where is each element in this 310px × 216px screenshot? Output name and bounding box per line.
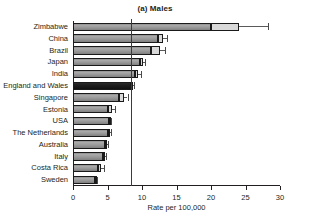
category-label-brazil: Brazil <box>49 45 68 57</box>
category-label-singapore: Singapore <box>34 92 68 104</box>
bar-row: Italy <box>73 151 280 163</box>
category-label-australia: Australia <box>39 139 68 151</box>
bar-row: England and Wales <box>73 80 280 92</box>
x-tick-25 <box>246 186 247 190</box>
x-tick-label-25: 25 <box>241 193 249 202</box>
bar-row: Estonia <box>73 104 280 116</box>
x-tick-30 <box>280 186 281 190</box>
bar-usa <box>73 117 109 125</box>
bar-row: Zimbabwe <box>73 21 280 33</box>
error-whisker-cap <box>145 59 146 66</box>
confidence-interval-box <box>103 152 105 160</box>
bar-england-and-wales <box>73 82 131 90</box>
confidence-interval-box <box>95 176 97 184</box>
bar-row: Singapore <box>73 92 280 104</box>
confidence-interval-box <box>158 34 163 42</box>
top-cropped-artifact <box>10 0 130 3</box>
bar-row: USA <box>73 115 280 127</box>
confidence-interval-box <box>135 70 138 78</box>
confidence-interval-box <box>108 105 112 113</box>
reference-line <box>131 19 132 186</box>
x-tick-0 <box>73 186 74 190</box>
chart-figure: (a) Males 051015202530ZimbabweChinaBrazi… <box>0 0 310 216</box>
category-label-sweden: Sweden <box>41 174 68 186</box>
error-whisker-cap <box>268 23 269 30</box>
x-tick-label-15: 15 <box>172 193 180 202</box>
bar-singapore <box>73 93 119 101</box>
bar-the-netherlands <box>73 129 108 137</box>
error-whisker-cap <box>104 165 105 172</box>
error-whisker-cap <box>106 153 107 160</box>
error-whisker-cap <box>115 106 116 113</box>
bar-japan <box>73 58 140 66</box>
x-tick-20 <box>211 186 212 190</box>
x-tick-5 <box>108 186 109 190</box>
bar-estonia <box>73 105 108 113</box>
category-label-usa: USA <box>53 115 68 127</box>
category-label-england-and-wales: England and Wales <box>3 80 68 92</box>
confidence-interval-box <box>140 58 143 66</box>
error-whisker-cap <box>167 35 168 42</box>
error-whisker-cap <box>134 82 135 89</box>
panel-title: (a) Males <box>0 4 310 13</box>
error-whisker-cap <box>165 47 166 54</box>
category-label-costa-rica: Costa Rica <box>31 162 68 174</box>
bar-row: The Netherlands <box>73 127 280 139</box>
category-label-japan: Japan <box>48 56 68 68</box>
bar-row: China <box>73 33 280 45</box>
category-label-estonia: Estonia <box>43 104 68 116</box>
x-axis-label: Rate per 100,000 <box>73 203 280 212</box>
confidence-interval-box <box>211 23 239 31</box>
bar-india <box>73 70 135 78</box>
category-label-india: India <box>52 68 68 80</box>
confidence-interval-box <box>109 117 111 125</box>
bar-row: Sweden <box>73 174 280 186</box>
category-label-china: China <box>48 33 68 45</box>
x-tick-label-10: 10 <box>138 193 146 202</box>
confidence-interval-box <box>108 129 110 137</box>
x-tick-label-30: 30 <box>276 193 284 202</box>
error-whisker-cap <box>97 177 98 184</box>
error-whisker-cap <box>108 141 109 148</box>
x-tick-label-5: 5 <box>105 193 109 202</box>
bar-costa-rica <box>73 164 98 172</box>
bar-zimbabwe <box>73 23 211 31</box>
bar-row: Australia <box>73 139 280 151</box>
x-tick-10 <box>142 186 143 190</box>
x-tick-label-0: 0 <box>71 193 75 202</box>
confidence-interval-box <box>98 164 101 172</box>
bar-brazil <box>73 46 151 54</box>
category-label-italy: Italy <box>54 151 68 163</box>
x-tick-label-20: 20 <box>207 193 215 202</box>
confidence-interval-box <box>105 140 107 148</box>
error-whisker-cap <box>111 118 112 125</box>
confidence-interval-box <box>151 46 160 54</box>
bar-row: India <box>73 68 280 80</box>
bar-italy <box>73 152 103 160</box>
confidence-interval-box <box>119 93 124 101</box>
category-label-zimbabwe: Zimbabwe <box>33 21 68 33</box>
bar-row: Costa Rica <box>73 162 280 174</box>
bar-row: Japan <box>73 56 280 68</box>
category-label-the-netherlands: The Netherlands <box>13 127 68 139</box>
bar-china <box>73 34 158 42</box>
plot-area: 051015202530ZimbabweChinaBrazilJapanIndi… <box>73 21 280 186</box>
bar-sweden <box>73 176 95 184</box>
error-whisker-cap <box>128 94 129 101</box>
error-whisker-cap <box>141 71 142 78</box>
bar-australia <box>73 140 105 148</box>
bar-row: Brazil <box>73 45 280 57</box>
x-tick-15 <box>177 186 178 190</box>
error-whisker-cap <box>111 129 112 136</box>
